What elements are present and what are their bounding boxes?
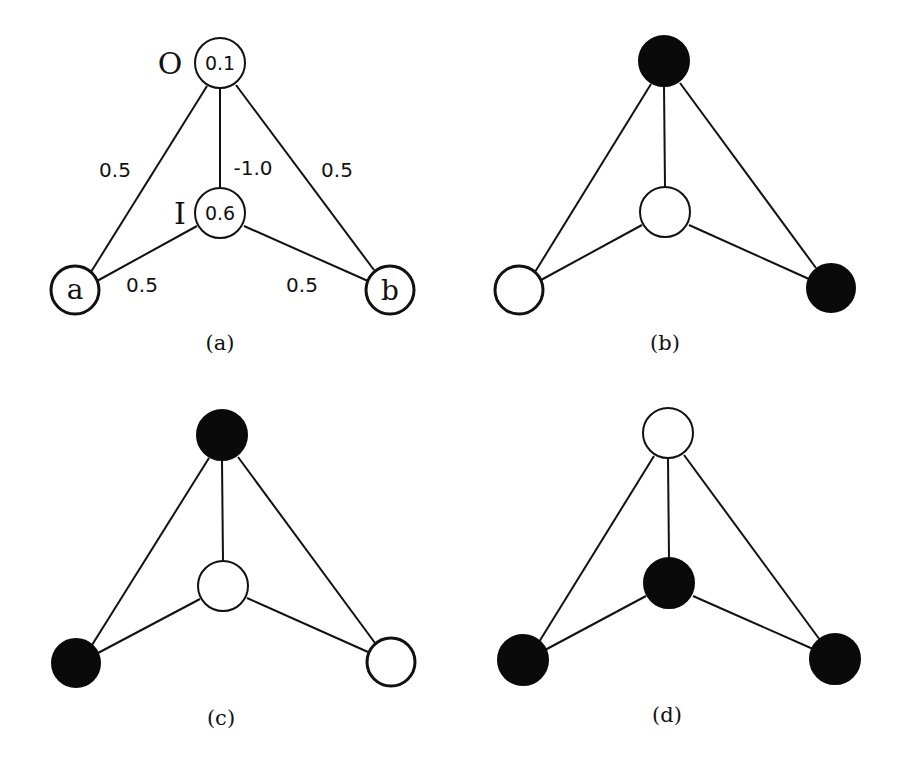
edge-I-O (668, 458, 669, 558)
node-I (640, 187, 690, 237)
node-O (643, 408, 693, 458)
edge-b-I (247, 598, 368, 652)
panel-b: (b) (495, 36, 855, 355)
node-b (807, 264, 855, 312)
node-b (810, 634, 860, 684)
panel-c: (c) (52, 410, 415, 730)
node-a (52, 639, 100, 687)
caption-d: (d) (652, 703, 682, 727)
caption-b: (b) (650, 331, 680, 355)
panel-d: (d) (498, 408, 860, 727)
caption-c: (c) (207, 706, 235, 730)
edge-I-O (222, 460, 223, 561)
node-I (198, 561, 248, 611)
node-I-name: I (174, 196, 186, 231)
node-a (498, 635, 548, 685)
node-I-value: 0.6 (205, 202, 235, 224)
node-b-label: b (381, 274, 399, 307)
edge-b-O (238, 457, 375, 643)
weight-b-I: 0.5 (286, 273, 318, 297)
node-O (197, 410, 247, 460)
edge-a-I (541, 225, 642, 280)
edge-b-I (693, 596, 813, 649)
node-O (639, 36, 689, 86)
node-a (495, 266, 543, 314)
edge-a-I (98, 599, 200, 653)
node-a-label: a (67, 273, 84, 306)
network-figure: 0.1 0.6 a b O I 0.5 -1.0 0.5 0.5 0.5 (a)… (0, 0, 906, 769)
node-O-name: O (158, 46, 183, 81)
node-O-value: 0.1 (205, 52, 235, 74)
weight-a-I: 0.5 (126, 273, 158, 297)
edge-b-O (684, 455, 820, 640)
edge-a-I (545, 596, 646, 650)
weight-I-O: -1.0 (233, 156, 272, 180)
weight-a-O: 0.5 (99, 158, 131, 182)
edge-a-O (92, 458, 209, 645)
node-b (367, 638, 415, 686)
node-I (644, 558, 694, 608)
weight-b-O: 0.5 (321, 158, 353, 182)
edge-I-O (664, 86, 665, 187)
edge-a-O (535, 84, 651, 272)
caption-a: (a) (206, 331, 235, 355)
panel-a: 0.1 0.6 a b O I 0.5 -1.0 0.5 0.5 0.5 (a) (51, 38, 414, 355)
edge-a-O (539, 456, 654, 642)
edge-b-O (680, 83, 816, 268)
